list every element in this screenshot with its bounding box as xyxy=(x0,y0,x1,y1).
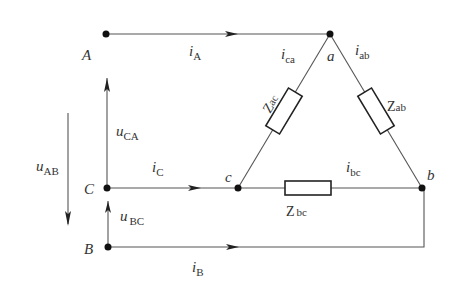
label-a: a xyxy=(327,48,335,64)
label-b: b xyxy=(427,167,435,183)
node-c xyxy=(235,185,242,192)
label-iab: iab xyxy=(355,42,370,61)
node-B xyxy=(105,244,112,251)
label-C: C xyxy=(84,181,95,197)
label-uAB: uAB xyxy=(36,158,59,177)
label-Zab: Zab xyxy=(387,99,406,114)
label-c: c xyxy=(225,169,232,185)
node-a xyxy=(327,31,334,38)
node-A xyxy=(103,31,110,38)
label-iB: iB xyxy=(192,259,204,278)
label-A: A xyxy=(81,47,92,63)
node-C xyxy=(104,185,111,192)
label-B: B xyxy=(84,241,93,257)
impedance-Zbc xyxy=(285,181,331,195)
label-ibc: ibc xyxy=(346,159,361,178)
delta-circuit-diagram: A C B a b c iA iC iB ica iab ibc uCA uBC… xyxy=(0,0,463,300)
label-ica: ica xyxy=(281,46,295,65)
label-uCA: uCA xyxy=(116,123,139,142)
label-uBC: uBC xyxy=(120,208,144,227)
label-iC: iC xyxy=(152,159,164,178)
node-b xyxy=(419,185,426,192)
line-B-b xyxy=(108,188,424,247)
label-Zbc: Zbc xyxy=(286,204,307,219)
label-iA: iA xyxy=(189,43,201,62)
